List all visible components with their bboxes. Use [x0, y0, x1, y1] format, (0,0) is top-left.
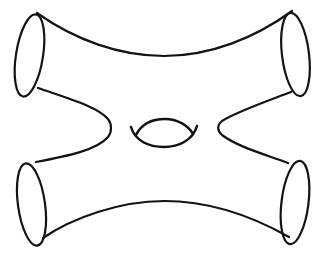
- boundary-circle-bottom-left: [12, 162, 50, 248]
- boundary-circle-top-right: [277, 11, 314, 98]
- genus-hole-upper-arc: [136, 119, 193, 135]
- genus-surface-diagram: [0, 0, 325, 258]
- surface-edge-right-notch: [218, 92, 291, 163]
- surface-edge-bottom: [43, 201, 289, 238]
- boundary-circle-top-left: [10, 12, 50, 98]
- surface-edge-left-notch: [36, 88, 111, 162]
- figure-canvas: [0, 0, 325, 258]
- surface-edge-top: [37, 11, 292, 56]
